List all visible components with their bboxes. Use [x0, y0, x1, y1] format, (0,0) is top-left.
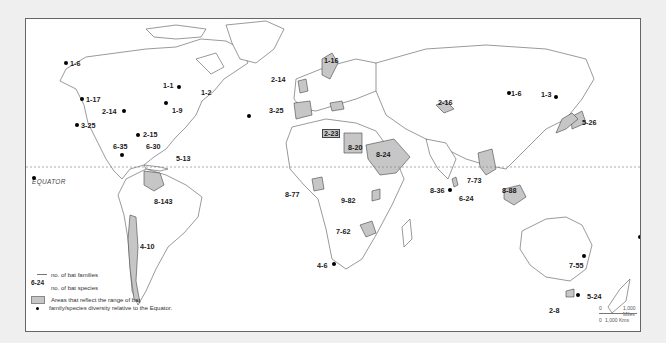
location-dot: [177, 85, 181, 89]
location-label: 8-143: [154, 198, 172, 205]
location-label: 1-9: [172, 107, 182, 114]
location-label: 8-36: [430, 187, 444, 194]
location-dot: [75, 123, 79, 127]
location-label: 5-26: [582, 119, 596, 126]
legend-families-row: no. of bat families: [31, 272, 251, 281]
location-label: 2-16: [438, 99, 452, 106]
location-label: 2-15: [143, 131, 157, 138]
legend-dot-row: family/species diversity relative to the…: [31, 305, 251, 314]
location-label: 9-82: [341, 197, 355, 204]
location-label: 8-77: [285, 191, 299, 198]
location-label: 6-35: [113, 143, 127, 150]
location-dot: [80, 97, 84, 101]
legend-example-value: 6-24: [31, 279, 44, 286]
legend-families-label: no. of bat families: [51, 272, 98, 278]
legend-dot-label: family/species diversity relative to the…: [49, 305, 172, 311]
location-dot: [136, 133, 140, 137]
location-dot: [164, 101, 168, 105]
scale-miles-zero: 0: [599, 305, 602, 311]
location-dot: [576, 293, 580, 297]
location-label: 1-6: [70, 60, 80, 67]
location-label: 1-1: [163, 82, 173, 89]
location-label: 3-25: [81, 122, 95, 129]
legend-shade-row: Areas that reflect the range of bat: [31, 296, 251, 305]
world-map: EQUATOR 1-6 1-1 1-2 1-17 1-9 2-14 3-25 2…: [25, 18, 641, 332]
location-label: 2-14: [271, 76, 285, 83]
location-label: 2-14: [102, 108, 116, 115]
location-dot: [122, 109, 126, 113]
location-label: 7-55: [569, 262, 583, 269]
location-dot: [582, 254, 586, 258]
location-dot: [120, 153, 124, 157]
location-label: 7-73: [467, 177, 481, 184]
location-label: 3-25: [269, 107, 283, 114]
legend-shade-label: Areas that reflect the range of bat: [51, 297, 140, 303]
location-label: 5-24: [587, 293, 601, 300]
location-dot: [332, 262, 336, 266]
location-label: 5-13: [176, 155, 190, 162]
location-label: 1-16: [324, 57, 338, 64]
map-legend: no. of bat families 6-24 no. of bat spec…: [31, 272, 251, 314]
location-label: 4-10: [140, 243, 154, 250]
location-label: 8-20: [348, 144, 362, 151]
location-label: 7-62: [336, 228, 350, 235]
location-label: 4-6: [317, 262, 327, 269]
location-label: 8-88: [502, 187, 516, 194]
location-label: 1-6: [511, 90, 521, 97]
scale-bar: [599, 313, 637, 314]
legend-species-label: no. of bat species: [51, 285, 98, 291]
location-dot: [247, 114, 251, 118]
location-dot-pacific-east: [638, 235, 641, 239]
dot-symbol-icon: [36, 307, 39, 310]
location-label: 2-8: [549, 307, 559, 314]
legend-example-row: 6-24 no. of bat species: [31, 281, 251, 290]
location-dot-pacific: [32, 176, 36, 180]
location-label: 1-3: [541, 91, 551, 98]
location-label: 1-2: [201, 89, 211, 96]
location-label: 1-17: [86, 96, 100, 103]
scale-kms-zero: 0: [599, 317, 602, 323]
equator-label: EQUATOR: [32, 178, 66, 185]
location-label: 2-23: [322, 129, 340, 138]
scale-kms-label: 1,000 Kms: [605, 317, 629, 323]
location-label: 8-24: [376, 151, 390, 158]
shaded-area-swatch: [31, 296, 45, 304]
location-dot: [64, 61, 68, 65]
location-dot: [448, 188, 452, 192]
location-label: 6-30: [146, 143, 160, 150]
scale-miles-label: 1,000 Miles: [623, 305, 639, 317]
location-label: 6-24: [459, 195, 473, 202]
location-dot: [554, 95, 558, 99]
